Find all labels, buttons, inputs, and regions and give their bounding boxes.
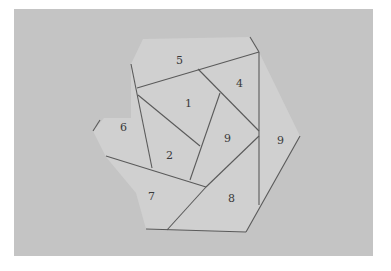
region-label-4: 4 — [236, 77, 243, 90]
region-label-7: 7 — [148, 190, 155, 203]
region-label-1: 1 — [185, 97, 192, 110]
region-label-5: 5 — [176, 54, 183, 67]
region-label-3: 9 — [224, 132, 231, 145]
paper-shape — [93, 37, 300, 232]
region-label-6: 6 — [120, 121, 127, 134]
hexagon-drawing: 5 4 1 6 9 9 2 7 8 — [0, 0, 391, 271]
region-label-8: 8 — [228, 192, 235, 205]
region-label-2: 2 — [166, 149, 173, 162]
photograph: 5 4 1 6 9 9 2 7 8 — [14, 9, 373, 256]
region-label-9: 9 — [277, 134, 284, 147]
